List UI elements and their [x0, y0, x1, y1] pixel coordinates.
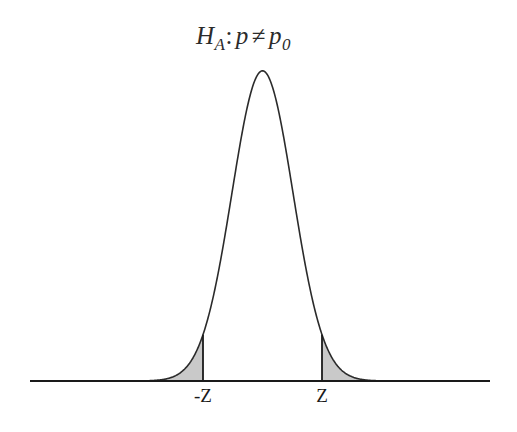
axis-label-positive-z: Z: [316, 385, 328, 406]
right-tail-shaded-region: [322, 335, 376, 381]
axis-label-negative-z: -Z: [194, 385, 212, 406]
normal-curve: [131, 71, 376, 381]
hypothesis-test-figure: HA:p≠p0 -Z Z: [0, 0, 517, 432]
normal-distribution-plot: -Z Z: [0, 0, 517, 432]
